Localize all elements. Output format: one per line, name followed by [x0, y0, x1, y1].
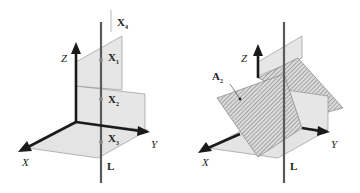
right-diagram: Z X Y L A 2 [180, 0, 360, 193]
point-x3-label: X [108, 132, 116, 144]
line-L-label: L [107, 160, 114, 172]
z-arrowhead [253, 44, 263, 56]
y-axis-label: Y [151, 138, 159, 150]
right-diagram-panel: Z X Y L A 2 [180, 0, 360, 193]
z-arrowhead [71, 42, 81, 54]
point-x4-label: X [117, 16, 125, 28]
plane-A2-label: A [212, 70, 220, 82]
point-x1-label: X [108, 51, 116, 63]
point-x2-marker [99, 97, 103, 101]
x-axis-label: X [201, 156, 210, 168]
line-L-label: L [290, 160, 297, 172]
A2-pointer-dot [239, 98, 242, 101]
plane-A2-sub: 2 [220, 78, 223, 84]
x-axis-label: X [21, 156, 30, 168]
point-x1-sub: 1 [116, 59, 119, 65]
point-x2-label: X [108, 93, 116, 105]
left-diagram-panel: Z X Y L X 4 X 1 X 2 X 3 [0, 0, 180, 193]
z-axis-label: Z [61, 52, 68, 64]
y-axis-label: Y [331, 138, 339, 150]
point-x3-sub: 3 [116, 140, 119, 146]
point-x1-marker [99, 58, 103, 62]
point-x2-sub: 2 [116, 101, 119, 107]
point-x4-sub: 4 [125, 24, 128, 30]
left-diagram: Z X Y L X 4 X 1 X 2 X 3 [0, 0, 180, 193]
point-x3-marker [99, 140, 103, 144]
z-axis-label: Z [241, 52, 248, 64]
